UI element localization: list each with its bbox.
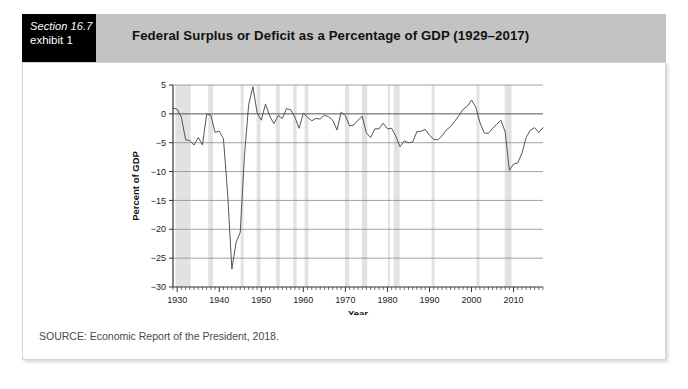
y-tick-label: −25 (151, 253, 166, 263)
x-tick-label: 1930 (167, 295, 187, 305)
exhibit-section-label: Section 16.7 (30, 19, 96, 33)
recession-band (388, 85, 390, 287)
y-tick-label: 5 (161, 80, 166, 90)
y-tick-label: 0 (161, 109, 166, 119)
line-chart: 50−5−10−15−20−25−30193019401950196019701… (23, 63, 667, 315)
exhibit-label-box: Section 16.7 exhibit 1 (22, 14, 96, 62)
x-tick-label: 2000 (462, 295, 482, 305)
x-tick-label: 1970 (335, 295, 355, 305)
exhibit-number-label: exhibit 1 (30, 33, 96, 48)
x-tick-label: 2010 (504, 295, 524, 305)
y-tick-label: −15 (151, 196, 166, 206)
x-axis-title: Year (348, 308, 368, 315)
exhibit-card: 50−5−10−15−20−25−30193019401950196019701… (22, 62, 666, 360)
x-tick-label: 1950 (251, 295, 271, 305)
y-tick-label: −5 (156, 138, 166, 148)
recession-band (432, 85, 435, 287)
source-note: SOURCE: Economic Report of the President… (39, 330, 279, 342)
x-tick-label: 1980 (377, 295, 397, 305)
y-tick-label: −30 (151, 282, 166, 292)
chart-container: 50−5−10−15−20−25−30193019401950196019701… (23, 63, 667, 315)
exhibit-title: Federal Surplus or Deficit as a Percenta… (132, 28, 529, 43)
y-tick-label: −20 (151, 224, 166, 234)
x-tick-label: 1960 (293, 295, 313, 305)
exhibit-page: Section 16.7 exhibit 1 Federal Surplus o… (0, 0, 688, 389)
y-axis-title: Percent of GDP (130, 150, 141, 220)
recession-band (176, 85, 191, 287)
x-tick-label: 1940 (209, 295, 229, 305)
recession-band (394, 85, 400, 287)
x-tick-label: 1990 (419, 295, 439, 305)
y-tick-label: −10 (151, 167, 166, 177)
recession-band (362, 85, 367, 287)
recession-band (505, 85, 512, 287)
